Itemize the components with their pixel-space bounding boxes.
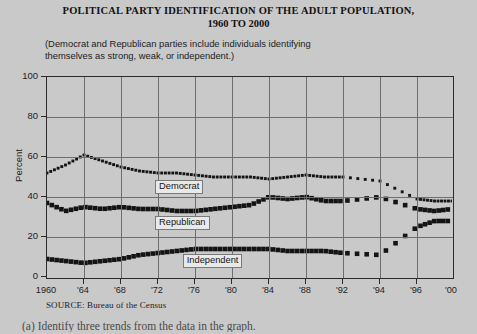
x-axis-tick-label: '84 bbox=[250, 285, 286, 295]
x-axis-tick-label: '80 bbox=[213, 285, 249, 295]
x-axis-tick-mark bbox=[194, 279, 195, 284]
chart-figure: POLITICAL PARTY IDENTIFICATION OF THE AD… bbox=[0, 0, 477, 334]
x-axis-tick-mark bbox=[231, 279, 232, 284]
source-note: SOURCE: Bureau of the Census bbox=[46, 300, 166, 310]
gridline-vertical bbox=[121, 77, 122, 278]
gridline-vertical bbox=[306, 77, 307, 278]
gridline-horizontal bbox=[47, 157, 453, 158]
x-axis-tick-label: '00 bbox=[433, 285, 469, 295]
gridline-vertical bbox=[195, 77, 196, 278]
x-axis-tick-mark bbox=[342, 279, 343, 284]
x-axis-tick-mark bbox=[83, 279, 84, 284]
y-axis-tick-label: 0 bbox=[8, 271, 38, 281]
x-axis-tick-label: '64 bbox=[65, 285, 101, 295]
gridline-vertical bbox=[343, 77, 344, 278]
y-axis-tick-label: 100 bbox=[8, 71, 38, 81]
gridline-horizontal bbox=[47, 117, 453, 118]
y-axis-tick-label: 20 bbox=[8, 231, 38, 241]
y-axis-tick-label: 80 bbox=[8, 111, 38, 121]
y-axis-tick-label: 40 bbox=[8, 191, 38, 201]
series-label-republican: Republican bbox=[155, 216, 210, 230]
gridline-vertical bbox=[158, 77, 159, 278]
gridline-vertical bbox=[417, 77, 418, 278]
series-democrat bbox=[47, 154, 452, 203]
x-axis-tick-mark bbox=[305, 279, 306, 284]
series-independent bbox=[47, 219, 450, 265]
x-axis-tick-label: '68 bbox=[102, 285, 138, 295]
footer-question: (a) Identify three trends from the data … bbox=[22, 320, 462, 332]
gridline-vertical bbox=[269, 77, 270, 278]
x-axis-tick-label: '96 bbox=[398, 285, 434, 295]
gridline-horizontal bbox=[47, 197, 453, 198]
x-axis-tick-label: '76 bbox=[176, 285, 212, 295]
x-axis-tick-mark bbox=[120, 279, 121, 284]
x-axis-tick-label: '94 bbox=[361, 285, 397, 295]
chart-title-block: POLITICAL PARTY IDENTIFICATION OF THE AD… bbox=[0, 4, 477, 30]
gridline-vertical bbox=[232, 77, 233, 278]
x-axis-tick-mark bbox=[268, 279, 269, 284]
x-axis-tick-label: 1960 bbox=[28, 285, 64, 295]
gridline-vertical bbox=[84, 77, 85, 278]
x-axis-tick-mark bbox=[416, 279, 417, 284]
y-axis-tick-label: 60 bbox=[8, 151, 38, 161]
series-label-democrat: Democrat bbox=[155, 180, 203, 194]
x-axis-tick-mark bbox=[157, 279, 158, 284]
x-axis-tick-label: '92 bbox=[324, 285, 360, 295]
gridline-vertical bbox=[380, 77, 381, 278]
page-subtitle-years: 1960 TO 2000 bbox=[0, 17, 477, 30]
gridline-horizontal bbox=[47, 237, 453, 238]
series-markers bbox=[47, 77, 452, 277]
chart-note: (Democrat and Republican parties include… bbox=[45, 38, 345, 61]
series-label-independent: Independent bbox=[183, 254, 243, 268]
page-title: POLITICAL PARTY IDENTIFICATION OF THE AD… bbox=[0, 4, 477, 17]
x-axis-tick-mark bbox=[379, 279, 380, 284]
x-axis-tick-label: '72 bbox=[139, 285, 175, 295]
plot-area bbox=[46, 76, 454, 279]
x-axis-tick-label: '88 bbox=[287, 285, 323, 295]
